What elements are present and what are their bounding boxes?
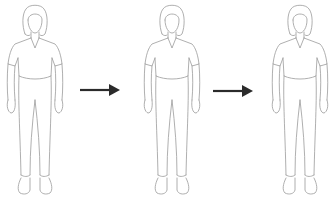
figure-person-3: standing woman, front view, short-sleeve…	[265, 0, 333, 199]
figure-person-1: standing woman, front view, short-sleeve…	[0, 0, 70, 199]
arrow-right-1: right	[79, 83, 121, 97]
person-illustration-icon	[265, 0, 333, 199]
arrow-right-icon	[79, 83, 121, 97]
arrow-right-2: right	[212, 84, 254, 98]
person-illustration-icon	[137, 0, 207, 199]
arrow-right-icon	[212, 84, 254, 98]
person-illustration-icon	[0, 0, 70, 199]
figure-person-2: standing woman, front view, short-sleeve…	[137, 0, 207, 199]
